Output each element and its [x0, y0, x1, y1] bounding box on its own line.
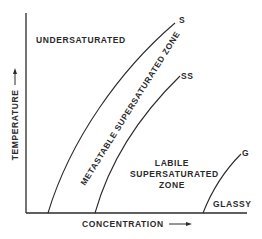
arrow-right-icon [169, 222, 192, 226]
x-axis-label: CONCENTRATION [82, 220, 164, 229]
region-label-labile-line2: SUPERSATURATED [130, 170, 214, 179]
arrow-up-icon [13, 68, 17, 85]
region-label-undersaturated: UNDERSATURATED [36, 36, 126, 45]
curve-label-g: G [242, 149, 249, 158]
region-label-labile-line3: ZONE [136, 181, 208, 190]
y-axis-label: TEMPERATURE [11, 106, 20, 160]
region-label-labile-line1: LABILE [136, 159, 208, 168]
region-label-glassy: GLASSY [213, 200, 252, 209]
curve-label-ss: SS [181, 72, 194, 81]
curve-label-s: S [179, 16, 185, 25]
